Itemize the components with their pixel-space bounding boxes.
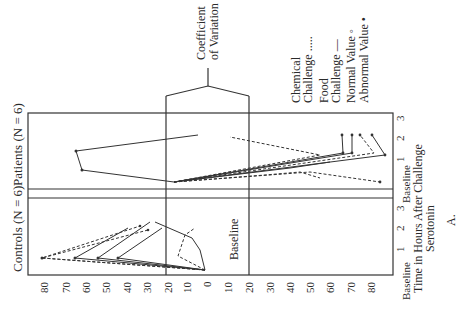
svg-text:2: 2 bbox=[394, 136, 406, 142]
svg-text:30: 30 bbox=[141, 282, 153, 294]
svg-text:30: 30 bbox=[264, 282, 276, 294]
legend-food-2: Challenge — bbox=[329, 38, 343, 103]
svg-text:50: 50 bbox=[100, 282, 112, 294]
legend-chemical-2: Challenge ..... bbox=[301, 36, 315, 103]
figure-label: A. bbox=[444, 214, 458, 226]
svg-text:1: 1 bbox=[394, 157, 406, 163]
axis-titles: Time in Hours After Challenge Serotonin … bbox=[411, 144, 458, 293]
svg-text:60: 60 bbox=[324, 282, 336, 294]
serotonin-title: Serotonin bbox=[423, 205, 437, 252]
svg-text:80: 80 bbox=[365, 282, 377, 294]
svg-text:50: 50 bbox=[304, 282, 316, 294]
value-axis-ticks: 80 70 60 50 40 30 20 10 0 10 20 30 40 50… bbox=[38, 281, 377, 293]
legend-abnormal: Abnormal Value • bbox=[357, 17, 371, 103]
panel-labels: Controls (N = 6) Patients (N = 6) bbox=[10, 103, 25, 272]
controls-series bbox=[42, 222, 205, 270]
baseline-annotation: Baseline bbox=[227, 219, 241, 260]
svg-text:10: 10 bbox=[181, 282, 193, 294]
svg-text:0: 0 bbox=[201, 281, 213, 287]
controls-markers bbox=[41, 225, 150, 260]
svg-text:40: 40 bbox=[121, 282, 133, 294]
svg-text:60: 60 bbox=[80, 282, 92, 294]
svg-text:3: 3 bbox=[394, 115, 406, 121]
controls-label: Controls (N = 6) bbox=[10, 186, 25, 272]
svg-text:1: 1 bbox=[394, 247, 406, 253]
svg-text:80: 80 bbox=[38, 282, 50, 294]
cv-annotation: Coefficient of Variation bbox=[194, 3, 221, 60]
svg-text:20: 20 bbox=[162, 282, 174, 294]
svg-text:70: 70 bbox=[345, 282, 357, 294]
svg-text:40: 40 bbox=[284, 282, 296, 294]
plot-frame bbox=[28, 113, 393, 275]
patients-series bbox=[76, 135, 385, 182]
time-axis-ticks: 1 2 3 1 2 3 Baseline Baseline bbox=[394, 115, 412, 300]
cv-bracket bbox=[166, 86, 249, 96]
legend: Chemical Challenge ..... Food Challenge … bbox=[289, 17, 371, 103]
svg-text:Coefficient: Coefficient bbox=[194, 6, 208, 60]
svg-text:10: 10 bbox=[222, 282, 234, 294]
svg-text:3: 3 bbox=[394, 205, 406, 211]
svg-text:2: 2 bbox=[394, 226, 406, 232]
svg-text:of Variation: of Variation bbox=[207, 3, 221, 60]
svg-text:70: 70 bbox=[60, 282, 72, 294]
patients-label: Patients (N = 6) bbox=[10, 103, 25, 186]
serotonin-chart: 80 70 60 50 40 30 20 10 0 10 20 30 40 50… bbox=[0, 0, 470, 309]
legend-normal: Normal Value ◦ bbox=[344, 29, 358, 103]
svg-text:20: 20 bbox=[243, 282, 255, 294]
